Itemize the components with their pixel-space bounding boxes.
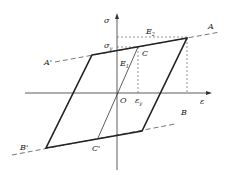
sigma-y-label: σy — [104, 41, 112, 52]
point-a-label: A — [207, 22, 214, 31]
origin-label: O — [120, 96, 127, 105]
sigma-axis-arrow — [115, 13, 119, 19]
epsilon-axis-label: ε — [200, 97, 204, 106]
sigma-axis-label: σ — [104, 16, 110, 25]
epsilon-axis-arrow — [206, 91, 212, 95]
point-c-label: C — [142, 49, 148, 58]
e2-label: E2 — [145, 27, 155, 37]
hysteresis-diagram: σ ε O A A' B B' C C' σy εy E1 E2 — [0, 0, 232, 175]
point-b-prime-label: B' — [19, 143, 28, 152]
epsilon-y-label: εy — [135, 96, 142, 107]
e1-label: E1 — [119, 59, 129, 69]
point-b-label: B — [180, 108, 187, 117]
point-a-prime-label: A' — [43, 58, 52, 67]
elastic-line-e1 — [98, 47, 138, 138]
point-c-prime-label: C' — [92, 144, 100, 153]
